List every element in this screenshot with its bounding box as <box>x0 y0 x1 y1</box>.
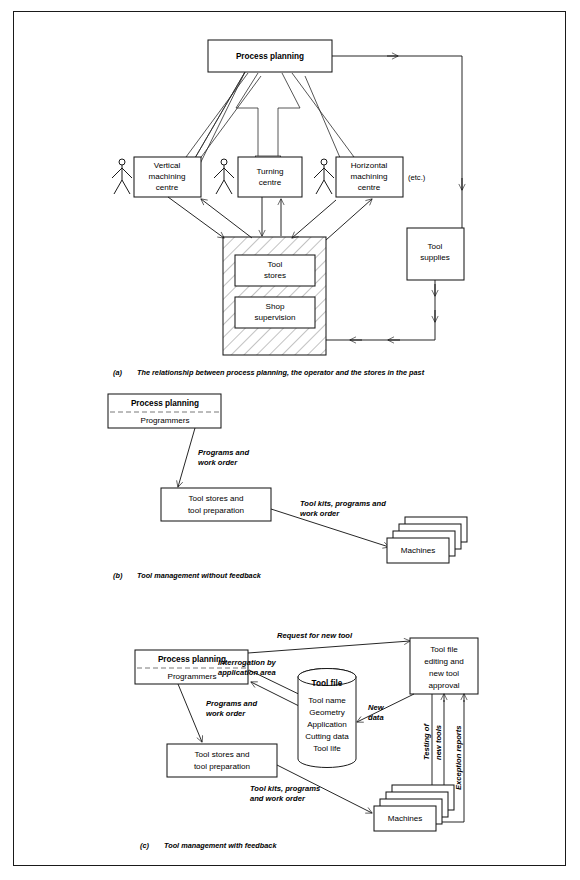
figure-page: Process planning <box>0 0 580 880</box>
page-border-frame <box>13 11 566 866</box>
